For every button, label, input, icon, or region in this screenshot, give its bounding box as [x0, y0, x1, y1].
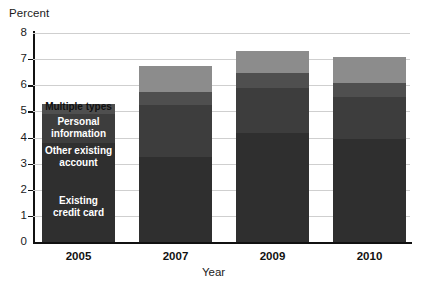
bar-2009-segment-other-existing-account	[236, 88, 309, 133]
y-tick-0: 0	[21, 236, 27, 248]
legend-label-personal-information-line1: Personal	[42, 116, 115, 128]
legend-label-other-existing-account: Other existing account	[40, 145, 117, 168]
bar-2010-segment-multiple-types	[333, 57, 406, 82]
y-tick-5: 5	[21, 106, 27, 118]
y-tick-2: 2	[21, 184, 27, 196]
bar-2007-segment-existing-credit-card	[139, 157, 212, 242]
stacked-bar-chart: Percent 8 7 6 5 4 3 2 1 0	[0, 0, 427, 288]
plot-area: Multiple types Personal information Othe…	[33, 33, 410, 242]
bar-2010-segment-existing-credit-card	[333, 139, 406, 242]
x-tick-2005: 2005	[42, 250, 115, 262]
y-tick-6: 6	[21, 80, 27, 92]
bar-2007	[139, 66, 212, 242]
x-axis-title: Year	[0, 266, 427, 278]
bar-2010-segment-personal-information	[333, 83, 406, 97]
legend-label-existing-credit-card-line1: Existing	[42, 195, 115, 207]
bar-2007-segment-other-existing-account	[139, 105, 212, 157]
y-tick-8: 8	[21, 27, 27, 39]
bar-2009-segment-multiple-types	[236, 51, 309, 73]
legend-label-other-existing-account-line1: Other existing	[40, 145, 117, 157]
bar-2010	[333, 57, 406, 242]
legend-label-other-existing-account-line2: account	[40, 157, 117, 169]
legend-label-existing-credit-card: Existing credit card	[42, 195, 115, 218]
bar-2009-segment-existing-credit-card	[236, 133, 309, 242]
legend-label-multiple-types: Multiple types	[42, 101, 115, 113]
gridline-8	[33, 33, 410, 34]
x-tick-2010: 2010	[333, 250, 406, 262]
bar-2010-segment-other-existing-account	[333, 97, 406, 139]
bar-2009	[236, 51, 309, 242]
legend-label-personal-information-line2: information	[42, 128, 115, 140]
bar-2009-segment-personal-information	[236, 73, 309, 88]
legend-label-personal-information: Personal information	[42, 116, 115, 139]
y-tick-1: 1	[21, 210, 27, 222]
y-axis-tick-labels: 8 7 6 5 4 3 2 1 0	[0, 0, 27, 288]
legend-label-existing-credit-card-line2: credit card	[42, 207, 115, 219]
y-tick-7: 7	[21, 53, 27, 65]
x-tick-2009: 2009	[236, 250, 309, 262]
x-tick-2007: 2007	[139, 250, 212, 262]
y-tick-4: 4	[21, 132, 27, 144]
bar-2007-segment-personal-information	[139, 92, 212, 105]
y-tick-3: 3	[21, 158, 27, 170]
bar-2007-segment-multiple-types	[139, 66, 212, 92]
